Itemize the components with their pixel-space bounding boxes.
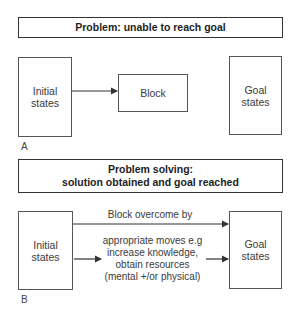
arrows-layer: [0, 0, 295, 316]
